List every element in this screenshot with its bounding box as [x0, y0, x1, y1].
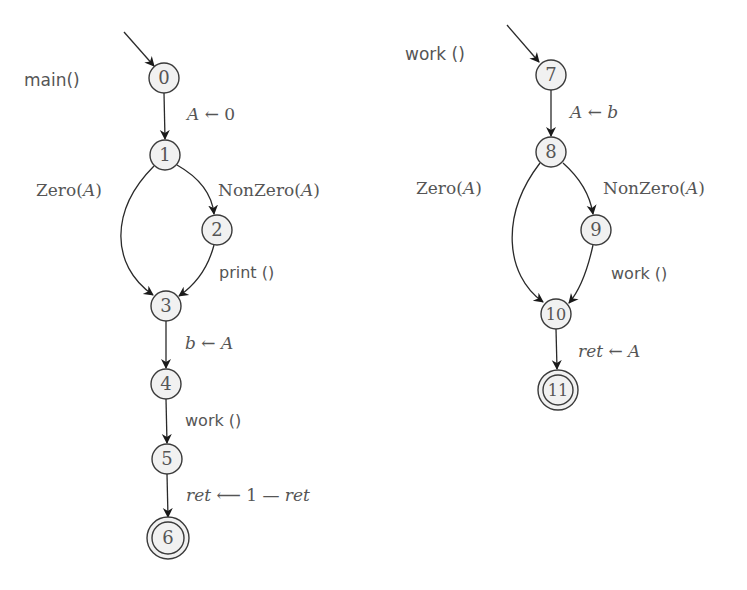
svg-text:11: 11 [548, 381, 568, 400]
edge-2-3 [179, 245, 214, 296]
svg-text:9: 9 [590, 219, 601, 240]
node-11-final: 11 [538, 370, 578, 410]
svg-text:8: 8 [545, 141, 556, 162]
work-procedure-title: work () [405, 44, 465, 64]
node-9: 9 [581, 215, 611, 245]
edge-0-1 [164, 93, 165, 139]
node-2: 2 [202, 215, 232, 245]
edge-label-8-10: Zero(A) [416, 178, 482, 198]
node-8: 8 [536, 137, 566, 167]
edge-10-11 [556, 329, 557, 369]
edge-8-10 [512, 163, 543, 302]
node-10: 10 [541, 299, 571, 329]
node-7: 7 [536, 60, 566, 90]
edge-label-8-9: NonZero(A) [603, 178, 705, 198]
edge-label-0-1: A ← 0 [185, 104, 235, 124]
svg-text:3: 3 [160, 295, 171, 316]
edge-label-5-6: ret ⟵ 1 — ret [186, 485, 310, 505]
edge-4-5 [166, 399, 167, 443]
svg-text:7: 7 [545, 64, 556, 85]
node-4: 4 [151, 369, 181, 399]
svg-text:6: 6 [162, 527, 173, 548]
edge-label-7-8: A ← b [568, 102, 618, 122]
svg-text:4: 4 [160, 373, 171, 394]
edge-8-9 [563, 163, 593, 214]
edge-1-3 [121, 166, 154, 295]
edge-9-10 [569, 245, 593, 303]
edge-label-1-2: NonZero(A) [218, 180, 320, 200]
svg-text:0: 0 [158, 67, 169, 88]
edge-1-2 [177, 165, 214, 214]
node-6-final: 6 [147, 517, 189, 559]
edge-label-9-10: work () [611, 264, 667, 283]
edge-label-3-4: b ← A [185, 333, 233, 353]
edge-label-10-11: ret ← A [578, 341, 640, 361]
svg-text:5: 5 [161, 448, 172, 469]
node-3: 3 [151, 291, 181, 321]
svg-text:1: 1 [159, 144, 170, 165]
edge-label-2-3: print () [219, 263, 274, 282]
node-0: 0 [149, 63, 179, 93]
control-flow-diagram: main() 0 1 2 3 4 5 6 A ← 0 Zero(A) NonZe… [0, 0, 747, 590]
main-procedure-title: main() [24, 70, 80, 90]
edge-label-4-5: work () [185, 411, 241, 430]
work-entry-arrow [507, 25, 539, 62]
svg-text:10: 10 [546, 305, 566, 324]
node-1: 1 [150, 140, 180, 170]
edge-label-1-3: Zero(A) [36, 180, 102, 200]
edge-5-6 [167, 474, 168, 517]
node-5: 5 [152, 444, 182, 474]
main-entry-arrow [124, 32, 154, 66]
svg-text:2: 2 [211, 219, 222, 240]
